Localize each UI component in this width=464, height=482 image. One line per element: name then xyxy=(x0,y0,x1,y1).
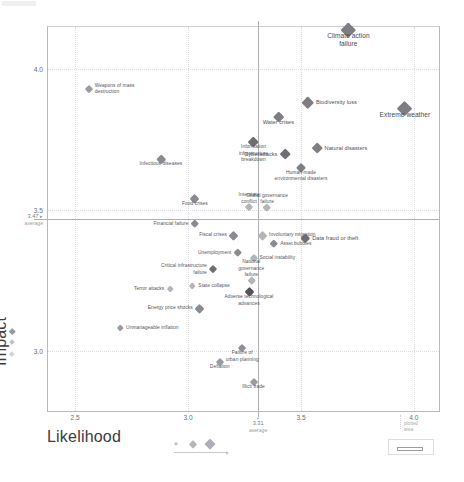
risk-point[interactable]: Cyberattacks xyxy=(279,148,291,160)
risk-point[interactable]: Financial failure xyxy=(191,220,200,229)
risk-point[interactable]: Terror attacks xyxy=(166,285,174,293)
risk-point[interactable]: Fiscal crises xyxy=(229,231,238,240)
diamond-marker-icon xyxy=(233,248,242,257)
diamond-marker-icon xyxy=(270,240,279,249)
risk-point[interactable]: Failure of urban planning xyxy=(238,344,246,352)
diamond-marker-icon xyxy=(209,265,217,273)
y-average-label: 3.47 ▸average xyxy=(25,212,43,225)
diamond-marker-icon xyxy=(229,231,238,240)
y-gridline xyxy=(48,210,439,211)
risk-point[interactable]: Infectious diseases xyxy=(156,155,166,165)
category-swatch-icon xyxy=(9,351,14,356)
risk-point-label: Adverse technological advances xyxy=(225,294,274,307)
plot-area: 2.53.03.54.04.03.53.03.47 ▸average3.31av… xyxy=(47,26,440,412)
risk-point-label: Biodiversity loss xyxy=(316,99,357,106)
diamond-marker-icon xyxy=(116,325,124,333)
risk-point-label: Illicit trade xyxy=(242,384,265,390)
risk-point[interactable]: Critical infrastructure failure xyxy=(209,265,217,273)
y-average-line xyxy=(34,219,439,220)
risk-point[interactable]: Asset bubbles xyxy=(270,240,279,249)
likelihood-size-legend xyxy=(168,432,248,456)
risk-point-label: Unmanageable inflation xyxy=(126,325,179,331)
risk-point-label: Deflation xyxy=(210,364,230,370)
y-tick-label: 4.0 xyxy=(34,66,43,73)
risk-point-label: Failure of urban planning xyxy=(226,350,259,363)
legend-diamond-icon xyxy=(204,438,215,449)
diamond-marker-icon xyxy=(311,142,323,154)
diamond-marker-icon xyxy=(189,282,197,290)
diamond-marker-icon xyxy=(190,220,199,229)
x-tick-label: 3.5 xyxy=(296,414,305,421)
risk-point[interactable]: State collapse xyxy=(189,282,197,290)
y-tick-label: 3.0 xyxy=(34,348,43,355)
risk-point-label: Financial failure xyxy=(153,221,188,227)
diamond-marker-icon xyxy=(279,148,291,160)
callout-box xyxy=(388,439,434,455)
x-tick-label: 2.5 xyxy=(71,414,80,421)
risk-point[interactable]: Extreme weather xyxy=(397,101,412,116)
legend-diamond-icon xyxy=(189,440,197,448)
risk-point-label: Food crises xyxy=(182,201,208,207)
risk-point-label: Extreme weather xyxy=(380,111,431,120)
risk-point-label: Fiscal crises xyxy=(199,232,227,238)
risk-point[interactable]: Biodiversity loss xyxy=(301,97,314,110)
risk-point[interactable]: Information infrastructure breakdown xyxy=(248,137,260,149)
risk-point-label: Energy price shocks xyxy=(148,306,193,312)
risk-point[interactable]: Unemployment xyxy=(233,248,242,257)
x-average-tick-marker: ▴ xyxy=(257,415,259,420)
risk-point[interactable]: Energy price shocks xyxy=(195,304,204,313)
risk-point-label: Terror attacks xyxy=(134,286,164,292)
risk-point[interactable]: Global governance failure xyxy=(263,203,272,212)
risk-point[interactable]: Deflation xyxy=(216,358,224,366)
risk-point[interactable]: Human-made environmental disasters xyxy=(296,163,306,173)
risk-point-label: Climate action failure xyxy=(327,32,369,49)
risk-point-label: Natural disasters xyxy=(325,145,368,152)
legend-diamond-icon xyxy=(174,442,179,447)
diamond-marker-icon xyxy=(195,304,204,313)
category-swatch-icon xyxy=(9,339,15,345)
risk-point-label: Unemployment xyxy=(198,249,232,255)
top-edge-artifact xyxy=(2,1,36,6)
risk-point[interactable]: Water crises xyxy=(273,112,284,123)
risk-point-label: Critical infrastructure failure xyxy=(161,263,207,276)
x-axis-title: Likelihood xyxy=(47,428,121,446)
legend-size-arrow xyxy=(174,452,228,453)
risk-point-label: Water crises xyxy=(263,119,294,126)
diamond-marker-icon xyxy=(258,231,267,240)
risk-point[interactable]: National governance failure xyxy=(247,276,256,285)
diamond-marker-icon xyxy=(301,97,314,110)
category-swatch-icon xyxy=(9,328,15,334)
risk-point-label: Social instability xyxy=(260,255,296,261)
y-gridline xyxy=(48,69,439,70)
risk-point-label: Human-made environmental disasters xyxy=(275,170,328,183)
risk-point-label: Data fraud or theft xyxy=(312,235,358,242)
risk-point[interactable]: Adverse technological advances xyxy=(245,287,254,296)
x-tick-label: 3.0 xyxy=(183,414,192,421)
risk-point-label: National governance failure xyxy=(238,259,264,278)
risk-point-label: Weapons of mass destruction xyxy=(95,83,135,96)
risk-point[interactable]: Weapons of mass destruction xyxy=(85,85,93,93)
callout-guide-line xyxy=(400,415,401,429)
diamond-marker-icon xyxy=(166,285,174,293)
chart-canvas: 2.53.03.54.04.03.53.03.47 ▸average3.31av… xyxy=(0,0,464,482)
risk-point[interactable]: Climate action failure xyxy=(341,22,357,38)
risk-point-label: Information infrastructure breakdown xyxy=(239,145,268,164)
risk-point[interactable]: Involuntary migration xyxy=(258,231,267,240)
risk-point[interactable]: Natural disasters xyxy=(311,142,323,154)
risk-point[interactable]: Food crises xyxy=(190,194,199,203)
risk-point-label: Infectious diseases xyxy=(140,161,183,167)
risk-point[interactable]: Unmanageable inflation xyxy=(117,325,125,333)
risk-point-label: Global governance failure xyxy=(246,192,288,205)
diamond-marker-icon xyxy=(85,85,93,93)
x-average-label: 3.31average xyxy=(249,420,267,433)
risk-point[interactable]: Illicit trade xyxy=(250,378,258,386)
x-tick-label: 4.0 xyxy=(409,414,418,421)
risk-point-label: State collapse xyxy=(198,283,229,289)
risk-point-label: Asset bubbles xyxy=(280,241,311,247)
callout-text: plotted area xyxy=(404,421,418,433)
